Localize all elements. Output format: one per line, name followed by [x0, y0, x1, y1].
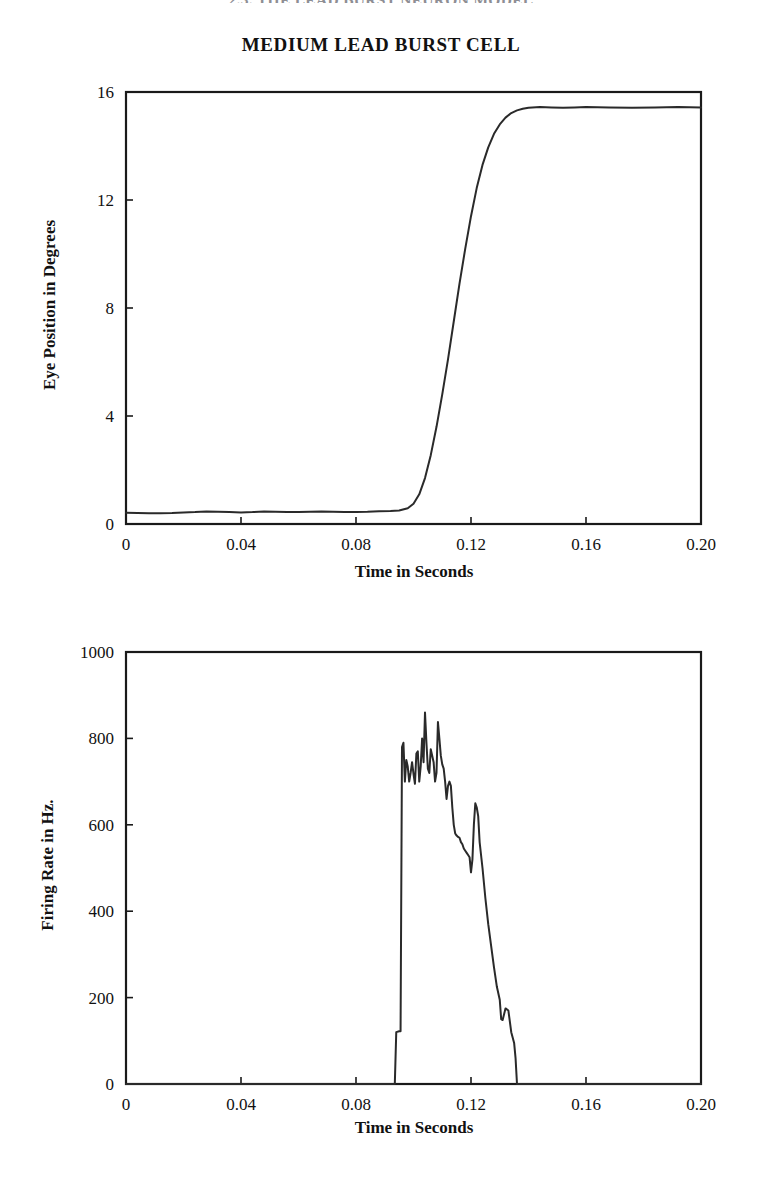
eye-position-x-axis-title: Time in Seconds [126, 562, 702, 582]
x-tick-label: 0.08 [341, 1095, 371, 1114]
x-tick-label: 0.04 [226, 1095, 256, 1114]
firing-rate-x-axis-title: Time in Seconds [126, 1118, 702, 1138]
data-trace [126, 107, 701, 513]
eye-position-y-axis-title: Eye Position in Degrees [40, 190, 60, 420]
eye-position-chart: 00.040.080.120.160.200481216 [0, 60, 762, 560]
firing-rate-y-axis-title: Firing Rate in Hz. [38, 760, 58, 970]
y-tick-label: 4 [106, 407, 115, 426]
firing-rate-panel: 00.040.080.120.160.2002004006008001000 [0, 620, 762, 1120]
data-trace [126, 712, 701, 1084]
y-tick-label: 16 [97, 83, 114, 102]
running-head: 2.3. THE LEAD BURST NEURON MODEL [0, 0, 762, 3]
eye-position-panel: 00.040.080.120.160.200481216 [0, 60, 762, 560]
y-tick-label: 12 [97, 191, 114, 210]
figure-title: MEDIUM LEAD BURST CELL [0, 34, 762, 56]
y-tick-label: 200 [89, 989, 115, 1008]
y-tick-label: 600 [89, 816, 115, 835]
figure-page: 2.3. THE LEAD BURST NEURON MODEL MEDIUM … [0, 0, 762, 1187]
x-tick-label: 0.04 [226, 535, 256, 554]
y-tick-label: 8 [106, 299, 115, 318]
y-tick-label: 0 [106, 515, 115, 534]
x-tick-label: 0 [122, 1095, 131, 1114]
x-tick-label: 0.20 [686, 1095, 716, 1114]
y-tick-label: 1000 [80, 643, 114, 662]
y-tick-label: 400 [89, 902, 115, 921]
x-tick-label: 0.16 [571, 1095, 601, 1114]
firing-rate-chart: 00.040.080.120.160.2002004006008001000 [0, 620, 762, 1120]
y-tick-label: 0 [106, 1075, 115, 1094]
x-tick-label: 0.20 [686, 535, 716, 554]
x-tick-label: 0.12 [456, 535, 486, 554]
x-tick-label: 0 [122, 535, 131, 554]
x-tick-label: 0.08 [341, 535, 371, 554]
plot-frame [126, 652, 701, 1084]
x-tick-label: 0.16 [571, 535, 601, 554]
x-tick-label: 0.12 [456, 1095, 486, 1114]
plot-frame [126, 92, 701, 524]
y-tick-label: 800 [89, 729, 115, 748]
